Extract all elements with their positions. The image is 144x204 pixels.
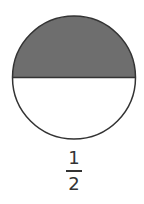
denominator: 2 [60, 174, 88, 194]
shaded-half [13, 16, 136, 77]
fraction-bar [66, 170, 82, 172]
fraction-label: 1 2 [60, 148, 88, 194]
fraction-circle [0, 0, 144, 145]
numerator: 1 [60, 148, 88, 168]
unshaded-half [13, 78, 136, 139]
